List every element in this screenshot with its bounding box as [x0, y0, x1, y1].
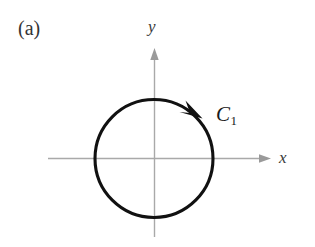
- x-axis-label: x: [279, 149, 287, 166]
- curve-label-c1: C1: [216, 104, 237, 127]
- x-axis-arrowhead: [259, 154, 271, 162]
- curve-direction-arrowhead: [180, 101, 203, 119]
- figure-panel: (a) y x C1: [0, 0, 315, 247]
- y-axis-arrowhead: [150, 48, 158, 60]
- y-axis-label: y: [148, 18, 156, 35]
- panel-label: (a): [18, 18, 40, 38]
- curve-label-subscript: 1: [231, 113, 238, 128]
- curve-label-base: C: [216, 102, 230, 126]
- figure-canvas: [0, 0, 315, 247]
